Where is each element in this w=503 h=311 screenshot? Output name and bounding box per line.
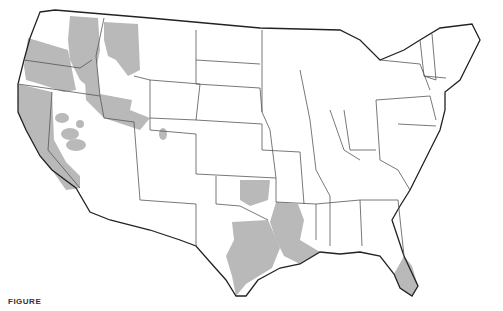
figure-caption: FIGURE: [8, 297, 41, 306]
us-map: [0, 0, 503, 311]
caption-label: FIGURE: [8, 297, 41, 306]
shaded-regions: [18, 16, 418, 296]
